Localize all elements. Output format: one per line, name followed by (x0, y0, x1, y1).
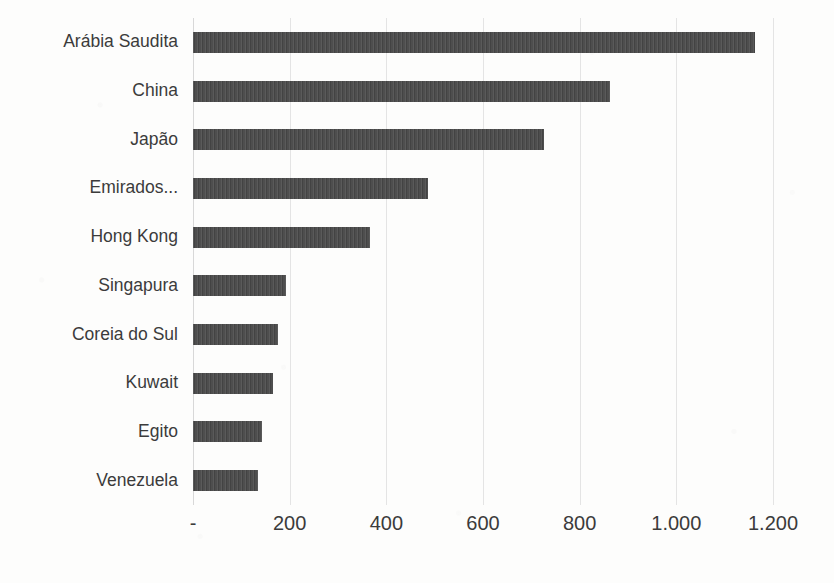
gridline-1200 (773, 18, 774, 505)
bar (193, 470, 258, 491)
plot-area (193, 18, 773, 505)
bar-chart: Arábia SauditaChinaJapãoEmirados...Hong … (0, 0, 834, 583)
x-axis-tick-label: 400 (370, 512, 403, 535)
x-axis-tick-label: 1.200 (748, 512, 798, 535)
y-axis-label: Kuwait (8, 372, 178, 393)
y-axis-label: Egito (8, 421, 178, 442)
bar (193, 81, 610, 102)
x-axis-tick-labels: -2004006008001.0001.200 (193, 512, 773, 552)
x-axis-tick-label: - (190, 512, 197, 535)
bar (193, 178, 428, 199)
y-axis-label: Coreia do Sul (8, 324, 178, 345)
y-axis-label: Emirados... (8, 177, 178, 198)
x-axis-tick-label: 1.000 (651, 512, 701, 535)
y-axis-label: Hong Kong (8, 226, 178, 247)
bar (193, 324, 278, 345)
y-axis-category-labels: Arábia SauditaChinaJapãoEmirados...Hong … (0, 18, 178, 505)
x-axis-tick-label: 200 (273, 512, 306, 535)
bar (193, 129, 544, 150)
gridline-1000 (676, 18, 677, 505)
bar (193, 32, 755, 53)
y-axis-label: Singapura (8, 275, 178, 296)
bar (193, 373, 273, 394)
y-axis-label: China (8, 80, 178, 101)
x-axis-tick-label: 600 (466, 512, 499, 535)
y-axis-label: Arábia Saudita (8, 31, 178, 52)
bar (193, 275, 286, 296)
x-axis-tick-label: 800 (563, 512, 596, 535)
bar (193, 227, 370, 248)
y-axis-label: Venezuela (8, 470, 178, 491)
y-axis-label: Japão (8, 129, 178, 150)
bar (193, 421, 262, 442)
